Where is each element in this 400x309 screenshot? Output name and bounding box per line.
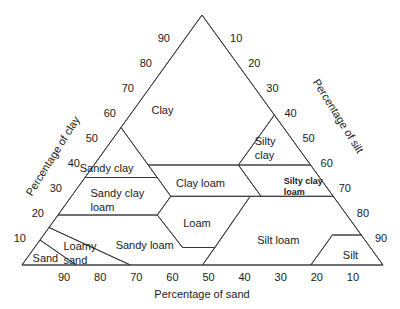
region-label-line: Clay — [151, 104, 174, 116]
clay-tick-70: 70 — [122, 82, 134, 94]
ternary-diagram: 1020304050607080901020304050607080909080… — [0, 0, 400, 309]
region-label-clay: Clay — [151, 104, 174, 116]
silt-tick-90: 90 — [375, 232, 387, 244]
clay-tick-60: 60 — [104, 107, 116, 119]
sand-tick-70: 70 — [130, 271, 142, 283]
sand-tick-30: 30 — [275, 271, 287, 283]
silt-tick-60: 60 — [321, 157, 333, 169]
sand-tick-60: 60 — [166, 271, 178, 283]
region-label-clay-loam: Clay loam — [176, 177, 225, 189]
region-label-line: clay — [255, 149, 275, 161]
sand-tick-40: 40 — [238, 271, 250, 283]
region-label-line: Sandy clay — [91, 187, 145, 199]
region-label-sand: Sand — [33, 252, 59, 264]
region-label-line: Silt — [343, 249, 358, 261]
silt-tick-70: 70 — [339, 182, 351, 194]
region-label-sandy-loam: Sandy loam — [116, 239, 174, 251]
region-label-line: Sandy loam — [116, 239, 174, 251]
silt-tick-10: 10 — [230, 32, 242, 44]
region-label-line: Loamy — [64, 240, 98, 252]
sand-tick-10: 10 — [347, 271, 359, 283]
silt-tick-40: 40 — [284, 107, 296, 119]
clay-tick-10: 10 — [14, 232, 26, 244]
region-label-silt: Silt — [343, 249, 358, 261]
region-label-silty-clay: Siltyclay — [255, 135, 276, 161]
region-label-sandy-clay: Sandy clay — [80, 162, 134, 174]
clay-tick-40: 40 — [68, 157, 80, 169]
region-label-line: Silt loam — [257, 234, 299, 246]
sand-tick-20: 20 — [311, 271, 323, 283]
sand-tick-90: 90 — [58, 271, 70, 283]
region-label-line: loam — [284, 187, 305, 197]
silt-tick-80: 80 — [357, 207, 369, 219]
silt-tick-50: 50 — [303, 132, 315, 144]
region-label-sandy-clay-loam: Sandy clayloam — [91, 187, 145, 213]
region-label-loam: Loam — [183, 217, 211, 229]
region-label-line: Sandy clay — [80, 162, 134, 174]
region-label-line: Clay loam — [176, 177, 225, 189]
sand-axis-label: Percentage of sand — [154, 288, 249, 300]
silt-axis-label: Percentage of silt — [311, 77, 366, 155]
region-label-line: Sand — [33, 252, 59, 264]
clay-tick-50: 50 — [86, 132, 98, 144]
sand-tick-80: 80 — [94, 271, 106, 283]
clay-tick-20: 20 — [32, 207, 44, 219]
region-label-loamy-sand: Loamysand — [64, 240, 98, 266]
region-label-silty-clay-loam: Silty clayloam — [284, 176, 323, 197]
region-label-line: Loam — [183, 217, 211, 229]
region-label-line: Silty clay — [284, 176, 323, 186]
region-label-line: loam — [91, 201, 115, 213]
clay-tick-90: 90 — [158, 32, 170, 44]
region-label-line: Silty — [255, 135, 276, 147]
clay-tick-30: 30 — [50, 182, 62, 194]
region-label-line: sand — [64, 254, 88, 266]
region-labels-layer: ClaySandy claySiltyclayClay loamSilty cl… — [33, 104, 359, 266]
region-clay — [121, 15, 274, 165]
silt-tick-30: 30 — [266, 82, 278, 94]
region-label-silt-loam: Silt loam — [257, 234, 299, 246]
silt-tick-20: 20 — [248, 57, 260, 69]
clay-tick-80: 80 — [140, 57, 152, 69]
soil-texture-triangle: 1020304050607080901020304050607080909080… — [0, 0, 400, 309]
sand-tick-50: 50 — [202, 271, 214, 283]
region-silt-loam — [203, 196, 362, 265]
